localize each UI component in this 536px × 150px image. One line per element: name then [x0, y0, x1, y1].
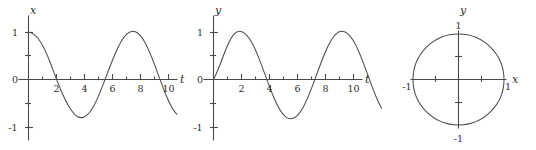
panel2-xlabel: t — [365, 73, 370, 86]
panel-y-vs-t: y t 1 0 -1 2 4 6 8 10 — [193, 4, 381, 140]
panel-phase-circle: y x 1 -1 -1 1 — [402, 4, 519, 144]
figure-three-panel-parametric: x t 1 0 -1 2 4 6 8 10 — [0, 0, 536, 150]
panel1-xtick-2: 2 — [53, 83, 59, 94]
panel-x-vs-t: x t 1 0 -1 2 4 6 8 10 — [8, 4, 185, 140]
panel2-xtick-6: 6 — [294, 83, 300, 94]
panel2-xtick-10: 10 — [347, 83, 359, 94]
panel2-ylabel: y — [214, 4, 222, 17]
panel3-xtick-1: 1 — [505, 81, 511, 92]
panel2-ytick-neg1: -1 — [193, 122, 202, 133]
panel1-xtick-8: 8 — [137, 83, 143, 94]
panel1-cosine-curve — [29, 31, 178, 117]
panel1-ytick-neg1: -1 — [8, 122, 17, 133]
panel2-ytick-1: 1 — [197, 27, 203, 38]
figure-canvas: x t 1 0 -1 2 4 6 8 10 — [0, 0, 536, 150]
panel3-ylabel: y — [459, 4, 467, 17]
panel1-ytick-0: 0 — [12, 74, 18, 85]
panel3-ytick-1: 1 — [455, 20, 461, 31]
panel2-xtick-8: 8 — [322, 83, 328, 94]
panel1-xlabel: t — [180, 73, 185, 86]
panel1-ytick-1: 1 — [12, 27, 18, 38]
panel1-xtick-4: 4 — [81, 83, 87, 94]
panel1-xtick-10: 10 — [162, 83, 174, 94]
panel2-xtick-4: 4 — [266, 83, 272, 94]
panel2-xtick-2: 2 — [238, 83, 244, 94]
panel3-xtick-neg1: -1 — [402, 81, 411, 92]
panel3-ytick-neg1: -1 — [454, 133, 463, 144]
panel1-ylabel: x — [30, 4, 37, 17]
panel1-xtick-6: 6 — [109, 83, 115, 94]
panel3-xlabel: x — [512, 73, 519, 86]
panel2-ytick-0: 0 — [197, 74, 203, 85]
